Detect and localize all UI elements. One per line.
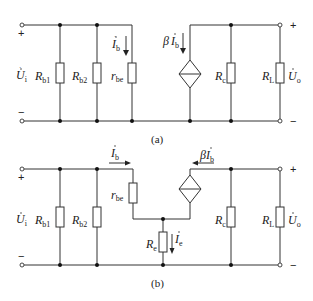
re-label: Re	[145, 237, 157, 253]
input-terminal-minus	[20, 263, 24, 267]
ie-arrow-icon	[170, 248, 175, 254]
node-dot	[58, 119, 62, 123]
output-terminal-plus	[278, 23, 282, 27]
rb1-resistor	[56, 207, 64, 227]
re-resistor	[159, 232, 167, 252]
caption-b: (b)	[151, 277, 164, 290]
output-terminal-minus	[278, 263, 282, 267]
node-dot	[229, 263, 233, 267]
rbe-resistor	[129, 183, 137, 203]
ib-arrow-icon	[125, 161, 131, 166]
beta-ib-label: βIb	[199, 148, 214, 164]
rb2-label: Rb2	[71, 69, 87, 85]
node-dot	[161, 263, 165, 267]
rb2-resistor	[93, 63, 101, 83]
svg-text:·: ·	[19, 64, 21, 72]
rc-resistor	[227, 63, 235, 83]
node-dot	[95, 167, 99, 171]
node-dot	[229, 167, 233, 171]
input-minus-sign: −	[18, 250, 24, 262]
input-plus-sign: +	[18, 171, 24, 183]
rbe-label: rbe	[111, 188, 124, 203]
rb1-label: Rb1	[34, 69, 50, 85]
rl-label: RL	[261, 69, 274, 85]
rc-label: Rc	[214, 213, 226, 229]
node-dot	[229, 119, 233, 123]
output-plus-sign: +	[290, 19, 296, 31]
input-terminal-minus	[20, 119, 24, 123]
node-dot	[95, 263, 99, 267]
rb2-label: Rb2	[71, 213, 87, 229]
output-minus-sign: −	[290, 115, 296, 127]
emitter-node-dot	[161, 217, 165, 221]
output-plus-sign: +	[290, 163, 296, 175]
rl-resistor	[276, 207, 284, 227]
rbe-resistor	[128, 63, 136, 83]
rb2-resistor	[93, 207, 101, 227]
rc-label: Rc	[214, 69, 226, 85]
circuit-b: + − + − Ui Rb1 Rb2 Ib rbe	[16, 146, 301, 290]
input-plus-sign: +	[18, 27, 24, 39]
circuit-a: + − + − Ui · Rb1 Rb2 rbe	[16, 19, 301, 146]
caption-a: (a)	[151, 133, 164, 146]
rb1-label: Rb1	[34, 213, 50, 229]
output-voltage-label: Uo	[288, 213, 301, 229]
node-dot	[58, 23, 62, 27]
rb1-resistor	[56, 63, 64, 83]
node-dot	[188, 119, 192, 123]
input-minus-sign: −	[18, 106, 24, 118]
node-dot	[130, 119, 134, 123]
output-minus-sign: −	[290, 259, 296, 271]
node-dot	[95, 119, 99, 123]
node-dot	[58, 263, 62, 267]
beta-ib-label: βIb	[162, 34, 179, 50]
circuit-diagram: + − + − Ui · Rb1 Rb2 rbe	[0, 0, 313, 301]
node-dot	[58, 167, 62, 171]
beta-ib-arrow-icon	[192, 161, 198, 166]
output-voltage-label: Uo	[288, 69, 301, 85]
input-voltage-label: Ui	[16, 68, 28, 84]
output-terminal-plus	[278, 167, 282, 171]
rbe-label: rbe	[111, 69, 124, 84]
ib-label: Ib	[110, 146, 119, 162]
rc-resistor	[227, 207, 235, 227]
node-dot	[95, 23, 99, 27]
ib-arrow-icon	[123, 50, 129, 56]
beta-ib-arrow-icon	[180, 48, 186, 54]
rl-label: RL	[261, 213, 274, 229]
input-voltage-label: Ui	[16, 212, 28, 228]
node-dot	[229, 23, 233, 27]
output-terminal-minus	[278, 119, 282, 123]
ie-label: Ie	[174, 232, 183, 248]
rl-resistor	[276, 63, 284, 83]
